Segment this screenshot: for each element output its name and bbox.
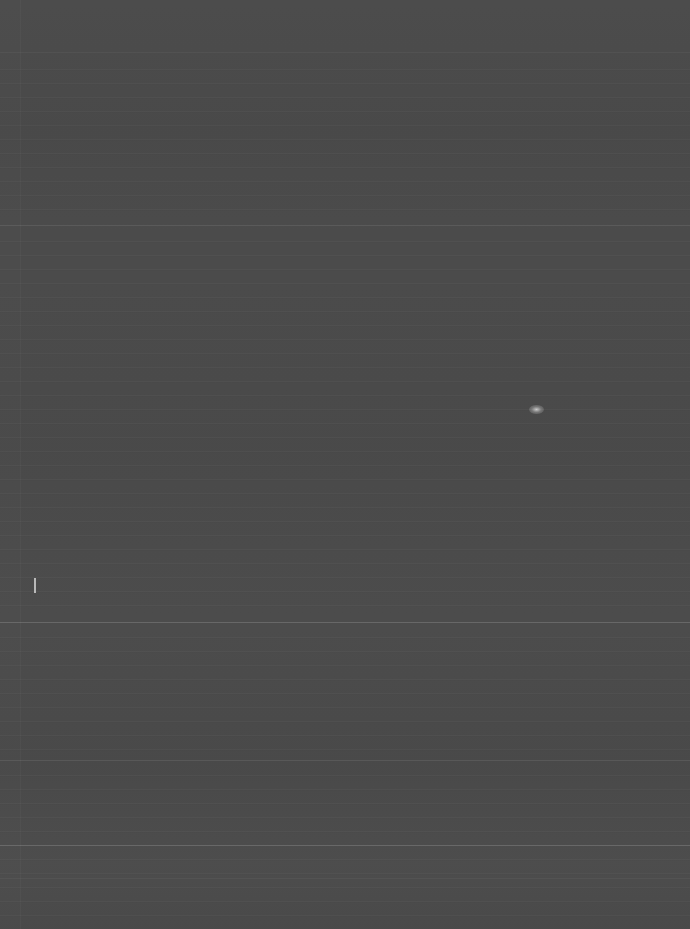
screen-capture: No text, icons, or labels are resolvable… bbox=[0, 0, 690, 929]
section-divider bbox=[0, 845, 690, 846]
ghost-text-rows bbox=[0, 766, 690, 842]
section-divider bbox=[0, 225, 690, 226]
section-divider bbox=[0, 622, 690, 623]
section-divider bbox=[0, 760, 690, 761]
ghost-text-rows bbox=[0, 232, 690, 616]
ghost-text-rows bbox=[0, 850, 690, 924]
mouse-cursor bbox=[529, 405, 544, 414]
section-divider bbox=[0, 52, 690, 53]
left-gutter-edge bbox=[0, 0, 21, 929]
ghost-text-rows bbox=[0, 628, 690, 756]
ghost-text-rows bbox=[0, 60, 690, 220]
section-divider bbox=[0, 878, 690, 879]
text-caret bbox=[34, 578, 36, 593]
tone-overlay bbox=[0, 0, 690, 929]
